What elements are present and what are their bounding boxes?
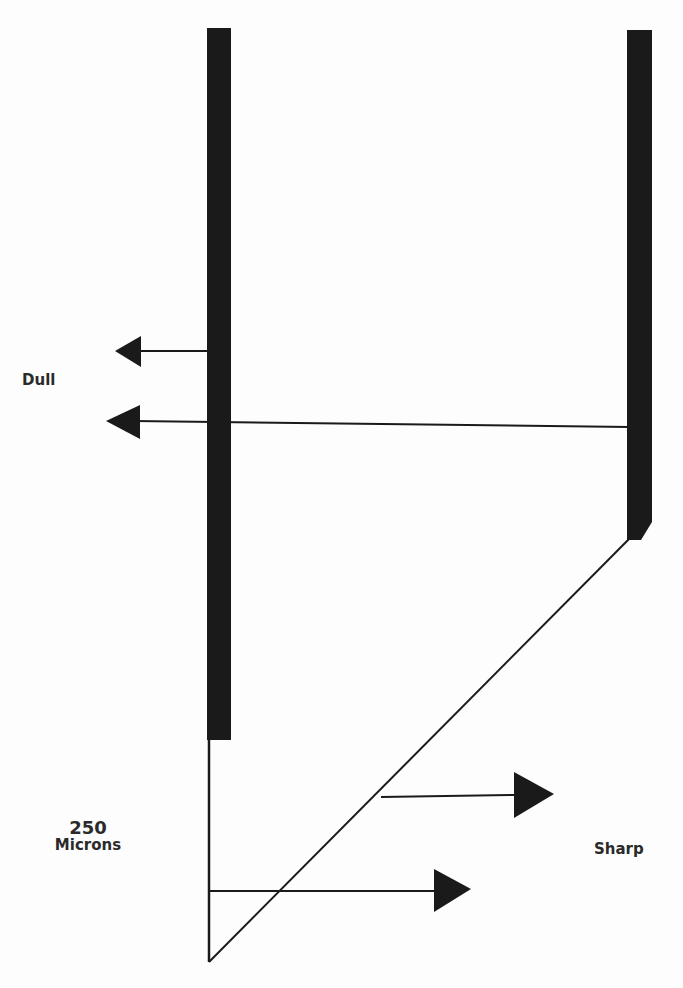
dull-arrow-head-2 [106,405,140,439]
right-blade-bar [627,30,652,540]
sharp-arrow-head-1 [514,772,554,818]
bevel-edge-line [209,538,630,962]
thickness-unit: Microns [40,837,136,854]
thickness-label: 250 Microns [40,818,136,854]
sharp-arrow-head-2 [434,869,471,912]
dull-arrow-head-1 [115,336,141,367]
dull-label: Dull [22,372,55,389]
diagram-canvas: Dull Sharp 250 Microns [0,0,683,988]
left-blade-bar [207,28,231,740]
sharp-arrow-line-1 [381,795,516,797]
thickness-value: 250 [40,818,136,837]
sharp-label: Sharp [594,841,644,858]
